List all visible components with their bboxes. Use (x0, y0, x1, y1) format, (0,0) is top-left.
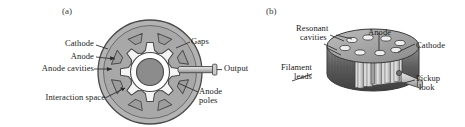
label-interaction-space: Interaction space (3, 93, 105, 103)
panel-b-caption: (b) (266, 6, 277, 16)
label-resonant-cavities-line2: cavities (300, 33, 327, 42)
label-anode-b: Anode (368, 28, 391, 38)
cathode-disc (137, 59, 164, 86)
label-filament-leads-line2: leads (256, 72, 312, 81)
label-pickup-loop-line2: look (419, 83, 435, 92)
label-cathode-a: Cathode (24, 39, 94, 49)
label-anode-poles-line2: poles (199, 96, 217, 105)
panel-a-caption: (a) (62, 6, 72, 16)
label-anode-a: Anode (24, 52, 94, 62)
label-anode-cavities: Anode cavities (5, 64, 94, 74)
label-cathode-b: Cathode (416, 41, 445, 51)
label-gaps: Gaps (191, 37, 209, 47)
label-output: Output (224, 64, 248, 74)
